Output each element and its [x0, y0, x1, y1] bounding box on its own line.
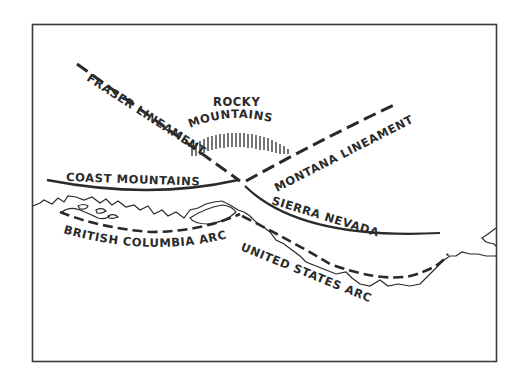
sierra-nevada-label: SIERRA NEVADA	[270, 193, 381, 239]
fraser-lineament-label: FRASER LINEAMENT	[84, 71, 208, 158]
british-columbia-arc-label: BRITISH COLUMBIA ARC	[62, 222, 228, 250]
map-figure: ROCKY MOUNTAINS FRASER LINEAMENT MONTANA…	[0, 0, 528, 384]
montana-lineament-label: MONTANA LINEAMENT	[272, 112, 416, 194]
rocky-label-line2: MOUNTAINS	[186, 107, 274, 131]
map-frame	[33, 25, 497, 362]
